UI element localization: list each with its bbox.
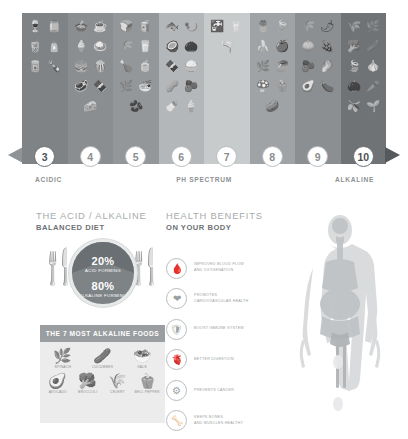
sprout-icon: 🌱	[364, 97, 382, 116]
ph-marker-3[interactable]: 3	[34, 146, 55, 167]
pie-alkaline-label: ALKALINE FORMING	[72, 293, 134, 298]
benefits-heading-primary: HEALTH BENEFITS	[166, 210, 286, 221]
artichoke-icon: 🌿	[254, 57, 272, 76]
diet-heading-primary: THE ACID / ALKALINE	[36, 210, 168, 221]
ph-column-food-icons: 🚰🥛🫗	[204, 13, 250, 147]
alkaline-foods-row: 🥑AVOCADO🥦BROCCOLI🌾CELERY🫑BELL PEPPER	[43, 372, 162, 394]
ph-column-food-icons: 🌾🌶🧅🍇🫐🥬🥑🍆	[295, 13, 341, 147]
benefit-text: BETTER DIGESTION	[194, 357, 234, 363]
alkaline-food-item: 🥑AVOCADO	[44, 372, 72, 394]
benefit-line-2: AND MUSCLES HEALTHY	[194, 421, 243, 427]
ph-column-food-icons: 🍍🍃🍌🍎🌿🥭🍄🫑🥔	[250, 13, 296, 147]
ph-column-5: 🍞🧃🌾🥛🍗🍵🌿🍜🫘	[113, 13, 159, 147]
milk-carton-icon: 🥛	[136, 37, 154, 56]
leaf-icon: 🍃	[273, 17, 291, 36]
alkaline-food-item: 🥒CUCUMBER	[88, 347, 116, 369]
pineapple-icon: 🍍	[254, 17, 272, 36]
chive-icon: 🌾	[345, 17, 363, 36]
ph-marker-9[interactable]: 9	[307, 146, 328, 167]
popcorn-icon: 🍿	[91, 57, 109, 76]
ph-label-alkaline: ALKALINE	[335, 176, 374, 183]
garlic-icon: 🧄	[364, 57, 382, 76]
alkaline-foods-grid: 🌿SPINACH🥒CUCUMBER🥗KALE🥑AVOCADO🥦BROCCOLI🌾…	[40, 342, 165, 400]
water-glass-icon: 🥛	[227, 17, 245, 36]
ph-marker-slot: 3	[22, 146, 68, 168]
celery-icon: 🌾	[103, 372, 131, 389]
ph-marker-slot: 10	[341, 146, 387, 168]
ph-column-food-icons: 🐟🍤🥥🌰🍫🍚🥜🫐🍼🍦	[159, 13, 205, 147]
ph-axis-labels: ACIDIC PH SPECTRUM ALKALINE	[22, 176, 386, 190]
alkaline-food-item: 🌾CELERY	[103, 372, 131, 394]
benefit-line-1: BETTER DIGESTION	[194, 357, 234, 363]
ph-marker-8[interactable]: 8	[262, 146, 283, 167]
bread-icon: 🍞	[117, 17, 135, 36]
roast-dish-icon: 🍛	[91, 37, 109, 56]
spinach-icon: 🌿	[117, 77, 135, 96]
pot-icon: 🍲	[72, 17, 90, 36]
benefits-list: 🩸IMPROVED BLOOD FLOWAND OXYGENATION❤PROM…	[166, 254, 286, 435]
plate-illustration: 🍴 🍴 20% ACID FORMING 80% ALKALINE FORMIN…	[36, 235, 168, 317]
benefit-line-2: CARDIOVASCULAR HEALTH	[194, 299, 249, 305]
balanced-diet-section: THE ACID / ALKALINE BALANCED DIET 🍴 🍴 20…	[36, 210, 168, 430]
nuts-icon: 🌰	[182, 37, 200, 56]
ginger-icon: 🫒	[345, 97, 363, 116]
bean-icon: 🫘	[127, 97, 145, 116]
banana-icon: 🍌	[254, 37, 272, 56]
alkaline-food-label: CUCUMBER	[88, 365, 116, 369]
fig-icon: 🫐	[182, 77, 200, 96]
bone-icon: 🦴	[166, 410, 187, 431]
ph-column-6: 🐟🍤🥥🌰🍫🍚🥜🫐🍼🍦	[159, 13, 205, 147]
pie-alkaline-group: 80% ALKALINE FORMING	[72, 280, 134, 298]
benefit-text: BOOST IMMUNE SYSTEM	[194, 326, 244, 332]
bell-pepper-icon: 🫑	[133, 372, 161, 389]
benefit-text: PREVENTS CANCER	[194, 388, 234, 394]
onion-icon: 🧅	[299, 37, 317, 56]
potato-icon: 🥔	[263, 97, 281, 116]
coconut-icon: 🥥	[163, 37, 181, 56]
alkaline-food-item: 🫑BELL PEPPER	[133, 372, 161, 394]
ph-marker-6[interactable]: 6	[171, 146, 192, 167]
wheat-icon: 🌾	[117, 37, 135, 56]
stomach-icon: 🫀	[166, 349, 187, 370]
oil-bottle-icon: 🧴	[45, 37, 63, 56]
avocado-icon: 🥑	[44, 372, 72, 389]
ph-value-markers: 345678910	[22, 146, 386, 168]
benefit-line-1: PREVENTS CANCER	[194, 388, 234, 394]
alkaline-food-label: CELERY	[103, 390, 131, 394]
tea-bag-icon: 🍵	[136, 57, 154, 76]
carrot-icon: 🥕	[364, 77, 382, 96]
chicken-leg-icon: 🍗	[117, 57, 135, 76]
ph-marker-slot: 7	[204, 146, 250, 168]
ph-marker-5[interactable]: 5	[125, 146, 146, 167]
ph-marker-slot: 8	[250, 146, 296, 168]
cell-icon: ⚙	[166, 380, 187, 401]
diet-heading-secondary: BALANCED DIET	[36, 223, 168, 232]
bell-pepper-icon: 🫑	[273, 77, 291, 96]
canned-food-icon: 🥫	[26, 57, 44, 76]
ph-column-7: 🚰🥛🫗	[204, 13, 250, 147]
benefit-line-2: AND OXYGENATION	[194, 268, 244, 274]
yogurt-icon: 🍦	[182, 97, 200, 116]
alkaline-food-label: AVOCADO	[44, 390, 72, 394]
ph-marker-10[interactable]: 10	[353, 146, 374, 167]
arrow-right-tip	[385, 147, 400, 163]
health-benefits-section: HEALTH BENEFITS ON YOUR BODY 🩸IMPROVED B…	[166, 210, 286, 430]
ice-cream-icon: 🍦	[72, 37, 90, 56]
ph-marker-4[interactable]: 4	[80, 146, 101, 167]
ph-column-food-icons: 🌾🌿🥦🥒🍃🧄🌰🥕🫒🌱	[341, 13, 387, 147]
ph-food-columns: 🍷🫙🧋🧴🥫🍾🍲☕🍦🍛🍔🍿🥩🍫🧀🍞🧃🌾🥛🍗🍵🌿🍜🫘🐟🍤🥥🌰🍫🍚🥜🫐🍼🍦🚰🥛🫗🍍🍃🍌…	[22, 13, 386, 147]
beet-icon: 🫐	[299, 57, 317, 76]
pie-acid-group: 20% ACID FORMING	[72, 255, 134, 273]
alkaline-food-label: BELL PEPPER	[133, 390, 161, 394]
ph-column-4: 🍲☕🍦🍛🍔🍿🥩🍫🧀	[68, 13, 114, 147]
rice-bowl-icon: 🍚	[182, 57, 200, 76]
broccoli-icon: 🥦	[345, 37, 363, 56]
oil-cruet-icon: 🫗	[218, 37, 236, 56]
cucumber-icon: 🥒	[88, 347, 116, 364]
ph-marker-7[interactable]: 7	[216, 146, 237, 167]
coffee-cup-icon: ☕	[91, 17, 109, 36]
chili-icon: 🌶	[318, 17, 336, 36]
alkaline-food-item: 🥗KALE	[128, 347, 156, 369]
alkaline-food-item: 🌿SPINACH	[49, 347, 77, 369]
chocolate-bar-icon: 🍫	[91, 77, 109, 96]
